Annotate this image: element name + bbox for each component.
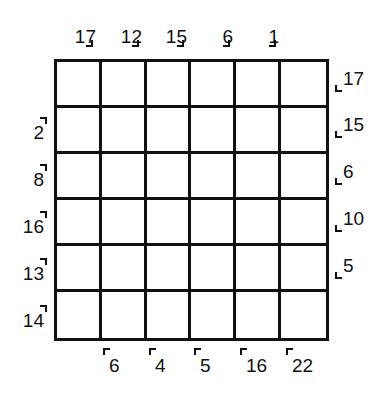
grid-cell-r4-c6[interactable] bbox=[281, 200, 326, 246]
grid-cell-r2-c2[interactable] bbox=[102, 108, 147, 154]
left-clue-corner-icon bbox=[40, 305, 47, 312]
bottom-clue-corner-icon bbox=[240, 348, 247, 355]
bottom-clue-corner-icon bbox=[194, 348, 201, 355]
right-clue-corner-icon bbox=[335, 85, 342, 92]
right-clue-3: 6 bbox=[343, 162, 354, 181]
bottom-clue-corner-icon bbox=[103, 348, 110, 355]
grid-cell-r5-c4[interactable] bbox=[191, 246, 236, 292]
grid-cell-r1-c2[interactable] bbox=[102, 62, 147, 108]
grid-cell-r5-c6[interactable] bbox=[281, 246, 326, 292]
grid-cell-r4-c3[interactable] bbox=[147, 200, 192, 246]
grid-cell-r4-c4[interactable] bbox=[191, 200, 236, 246]
grid-cell-r1-c3[interactable] bbox=[147, 62, 192, 108]
grid-cell-r3-c1[interactable] bbox=[57, 154, 102, 200]
right-clue-5: 5 bbox=[343, 256, 354, 275]
grid-cell-r6-c5[interactable] bbox=[236, 292, 281, 338]
grid-cell-r2-c3[interactable] bbox=[147, 108, 192, 154]
left-clue-corner-icon bbox=[40, 117, 47, 124]
right-clue-4: 10 bbox=[343, 209, 364, 228]
bottom-clue-2: 4 bbox=[155, 356, 166, 375]
grid-cell-r5-c2[interactable] bbox=[102, 246, 147, 292]
grid-cell-r3-c6[interactable] bbox=[281, 154, 326, 200]
left-clue-2: 8 bbox=[33, 170, 44, 189]
right-clue-corner-icon bbox=[335, 225, 342, 232]
grid-cell-r1-c5[interactable] bbox=[236, 62, 281, 108]
grid-cell-r5-c1[interactable] bbox=[57, 246, 102, 292]
top-clue-corner-icon bbox=[132, 40, 139, 47]
left-clue-corner-icon bbox=[40, 211, 47, 218]
grid-cell-r1-c6[interactable] bbox=[281, 62, 326, 108]
bottom-clue-corner-icon bbox=[149, 348, 156, 355]
right-clue-1: 17 bbox=[343, 69, 364, 88]
grid-cell-r3-c4[interactable] bbox=[191, 154, 236, 200]
top-clue-corner-icon bbox=[223, 40, 230, 47]
grid-cell-r6-c6[interactable] bbox=[281, 292, 326, 338]
grid-cell-r5-c3[interactable] bbox=[147, 246, 192, 292]
left-clue-5: 14 bbox=[23, 311, 44, 330]
left-clue-1: 2 bbox=[33, 123, 44, 142]
grid-cell-r2-c5[interactable] bbox=[236, 108, 281, 154]
top-clue-corner-icon bbox=[86, 40, 93, 47]
puzzle-grid bbox=[54, 59, 329, 341]
grid-cell-r2-c4[interactable] bbox=[191, 108, 236, 154]
left-clue-corner-icon bbox=[40, 258, 47, 265]
grid-cell-r4-c5[interactable] bbox=[236, 200, 281, 246]
bottom-clue-3: 5 bbox=[200, 356, 211, 375]
grid-cell-r6-c2[interactable] bbox=[102, 292, 147, 338]
right-clue-2: 15 bbox=[343, 115, 364, 134]
grid-cell-r2-c6[interactable] bbox=[281, 108, 326, 154]
grid-cell-r6-c3[interactable] bbox=[147, 292, 192, 338]
grid-cell-r1-c4[interactable] bbox=[191, 62, 236, 108]
grid-cell-r6-c4[interactable] bbox=[191, 292, 236, 338]
grid-cell-r3-c2[interactable] bbox=[102, 154, 147, 200]
grid-cell-r2-c1[interactable] bbox=[57, 108, 102, 154]
right-clue-corner-icon bbox=[335, 131, 342, 138]
grid-cell-r4-c2[interactable] bbox=[102, 200, 147, 246]
right-clue-corner-icon bbox=[335, 272, 342, 279]
bottom-clue-4: 16 bbox=[246, 356, 267, 375]
left-clue-4: 13 bbox=[23, 264, 44, 283]
grid-cell-r1-c1[interactable] bbox=[57, 62, 102, 108]
grid-cell-r3-c3[interactable] bbox=[147, 154, 192, 200]
left-clue-corner-icon bbox=[40, 164, 47, 171]
grid-cell-r4-c1[interactable] bbox=[57, 200, 102, 246]
grid-cell-r3-c5[interactable] bbox=[236, 154, 281, 200]
grid-cell-r6-c1[interactable] bbox=[57, 292, 102, 338]
bottom-clue-corner-icon bbox=[286, 348, 293, 355]
grid-cell-r5-c5[interactable] bbox=[236, 246, 281, 292]
right-clue-corner-icon bbox=[335, 178, 342, 185]
bottom-clue-1: 6 bbox=[109, 356, 120, 375]
bottom-clue-5: 22 bbox=[292, 356, 313, 375]
left-clue-3: 16 bbox=[23, 217, 44, 236]
top-clue-corner-icon bbox=[177, 40, 184, 47]
top-clue-corner-icon bbox=[269, 40, 276, 47]
